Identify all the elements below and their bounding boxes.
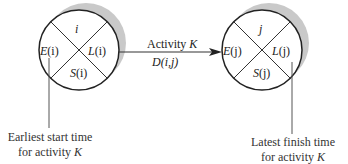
node-i-latest-finish: L(i) — [88, 44, 106, 58]
node-i-slack: S(i) — [70, 66, 87, 80]
node-j-latest-finish: L(j) — [272, 44, 290, 58]
node-i-id: i — [75, 22, 78, 36]
node-j-earliest-start: E(j) — [223, 44, 242, 58]
node-j-slack: S(j) — [253, 66, 270, 80]
activity-duration: D(i,j) — [152, 55, 178, 69]
activity-label: Activity K — [147, 37, 197, 51]
node-i-earliest-start: E(i) — [40, 44, 59, 58]
node-j-id: j — [259, 22, 262, 36]
caption-latest-finish: Latest finish time for activity K — [248, 135, 338, 164]
caption-earliest-start: Earliest start time for activity K — [5, 130, 95, 160]
